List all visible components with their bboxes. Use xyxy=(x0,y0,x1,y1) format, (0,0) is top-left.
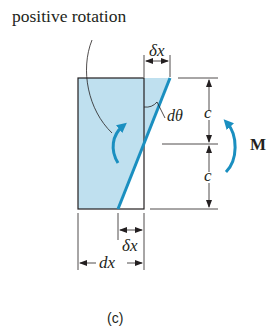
deformed-element-fill xyxy=(78,78,170,209)
positive-rotation-label: positive rotation xyxy=(12,8,126,26)
delta-x-bottom-label: δx xyxy=(122,237,137,254)
delta-x-top-label: δx xyxy=(149,42,164,59)
beam-element-diagram xyxy=(0,0,273,326)
figure-caption: (c) xyxy=(107,311,123,325)
c-lower-label: c xyxy=(204,167,212,184)
c-upper-label: c xyxy=(204,104,212,121)
dx-label: dx xyxy=(99,254,115,271)
moment-label: M xyxy=(250,136,266,153)
d-theta-label: dθ xyxy=(167,108,183,124)
moment-arrow-icon xyxy=(226,123,235,172)
